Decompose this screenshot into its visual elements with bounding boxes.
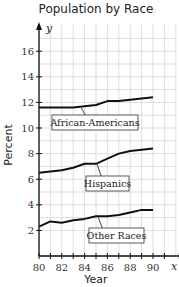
label-text: African-Americans: [49, 117, 139, 128]
x-tick-label: 80: [33, 262, 46, 273]
leader-line: [97, 164, 101, 176]
label-text: Other Races: [87, 230, 147, 241]
x-axis-variable: x: [171, 260, 178, 273]
series-label: Other Races: [87, 217, 147, 243]
x-tick-label: 82: [55, 262, 68, 273]
grid: [39, 24, 176, 256]
y-tick-label: 14: [21, 71, 34, 82]
y-tick-label: 8: [28, 148, 34, 159]
y-axis-arrow-icon: [36, 22, 42, 30]
series-label: African-Americans: [49, 108, 139, 130]
x-tick-label: 90: [147, 262, 160, 273]
y-axis-label: Percent: [2, 124, 15, 166]
label-text: Hispanics: [84, 178, 131, 189]
line-chart: Population by Race 246810121416 80828486…: [0, 0, 179, 287]
y-axis-variable: y: [45, 22, 53, 35]
y-tick-label: 2: [28, 225, 34, 236]
x-tick-label: 84: [78, 262, 91, 273]
y-tick-label: 10: [21, 123, 34, 134]
y-tick-label: 16: [21, 46, 34, 57]
x-axis-label: Year: [83, 273, 108, 286]
x-tick-label: 88: [124, 262, 137, 273]
y-tick-label: 6: [28, 174, 34, 185]
x-tick-label: 86: [101, 262, 114, 273]
y-tick-label: 4: [28, 199, 34, 210]
leader-line: [98, 217, 102, 228]
chart-title: Population by Race: [39, 2, 154, 16]
y-tick-label: 12: [21, 97, 34, 108]
